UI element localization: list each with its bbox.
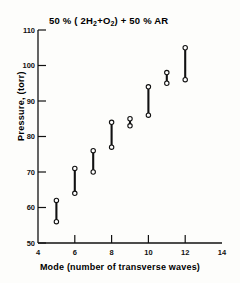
chart-title-lead: 50 % ( 2H xyxy=(49,15,93,26)
x-tick-label: 14 xyxy=(218,248,227,257)
marker-lower xyxy=(54,220,58,224)
x-tick-label: 10 xyxy=(144,248,152,257)
y-tick-label: 110 xyxy=(23,26,35,35)
marker-lower xyxy=(109,145,113,149)
chart-title: 50 % ( 2H2+O2) + 50 % AR xyxy=(49,15,168,27)
x-tick-group: 468101214 xyxy=(36,235,227,257)
marker-upper xyxy=(54,198,58,202)
data-point-range xyxy=(91,149,95,175)
marker-upper xyxy=(73,166,77,170)
data-point-range xyxy=(73,166,77,195)
chart-figure: 5060708090100110 468101214 50 % ( 2H2+O2… xyxy=(0,0,240,283)
marker-upper xyxy=(109,120,113,124)
chart-axes xyxy=(38,30,222,243)
y-axis-label: Pressure, (torr) xyxy=(16,71,26,141)
chart-title-mid: +O xyxy=(97,15,110,26)
marker-lower xyxy=(183,78,187,82)
marker-upper xyxy=(91,149,95,153)
y-tick-label: 60 xyxy=(27,203,35,212)
x-tick-label: 6 xyxy=(73,248,77,257)
x-tick-label: 12 xyxy=(181,248,189,257)
chart-title-tail: ) + 50 % AR xyxy=(115,15,169,26)
marker-lower xyxy=(146,113,150,117)
data-point-range xyxy=(128,117,132,129)
x-tick-label: 8 xyxy=(110,248,114,257)
data-point-range xyxy=(54,198,58,224)
marker-lower xyxy=(165,81,169,85)
x-tick-label: 4 xyxy=(36,248,41,257)
marker-lower xyxy=(91,170,95,174)
y-axis-label-wrap: Pressure, (torr) xyxy=(13,41,29,171)
marker-upper xyxy=(183,46,187,50)
data-point-range xyxy=(146,85,150,118)
chart-plot-area: 5060708090100110 468101214 xyxy=(0,0,240,283)
data-point-range xyxy=(109,120,113,149)
marker-lower xyxy=(73,191,77,195)
marker-upper xyxy=(165,70,169,74)
marker-upper xyxy=(128,117,132,121)
data-point-range xyxy=(183,46,187,82)
marker-lower xyxy=(128,124,132,128)
y-tick-label: 50 xyxy=(27,239,35,248)
marker-upper xyxy=(146,85,150,89)
x-axis-label: Mode (number of transverse waves) xyxy=(0,262,240,272)
data-series-group xyxy=(54,46,187,224)
data-point-range xyxy=(165,70,169,85)
